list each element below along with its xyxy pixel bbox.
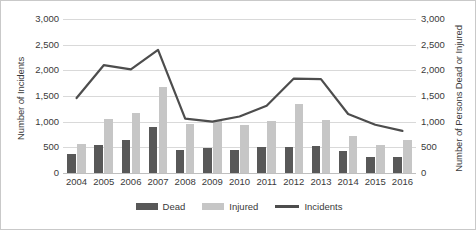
x-label-2007: 2007 — [147, 176, 168, 187]
right-tick-label: 1,000 — [421, 116, 455, 127]
left-tick-label: 1,000 — [25, 116, 59, 127]
legend-item-incidents[interactable]: Incidents — [275, 201, 342, 212]
right-tick-label: 500 — [421, 141, 455, 152]
legend-item-injured[interactable]: Injured — [202, 201, 258, 212]
legend-label-dead: Dead — [163, 201, 186, 212]
legend-label-incidents: Incidents — [304, 201, 342, 212]
x-label-2012: 2012 — [283, 176, 304, 187]
legend-label-injured: Injured — [229, 201, 258, 212]
right-tick-label: 0 — [421, 167, 455, 178]
right-tick-label: 1,500 — [421, 90, 455, 101]
incidents-line-path — [77, 50, 403, 131]
left-tick-label: 2,000 — [25, 64, 59, 75]
x-label-2015: 2015 — [365, 176, 386, 187]
x-label-2004: 2004 — [66, 176, 87, 187]
chart-container: Number of Incidents Number of Persons De… — [0, 0, 476, 230]
x-label-2009: 2009 — [202, 176, 223, 187]
x-label-2014: 2014 — [338, 176, 359, 187]
plot-area — [63, 19, 416, 173]
x-label-2013: 2013 — [310, 176, 331, 187]
right-tick-label: 3,000 — [421, 13, 455, 24]
x-axis-labels: 2004200520062007200820092010201120122013… — [63, 176, 416, 192]
x-label-2010: 2010 — [229, 176, 250, 187]
x-label-2011: 2011 — [256, 176, 276, 187]
incidents-line-icon — [275, 205, 299, 208]
x-label-2016: 2016 — [392, 176, 413, 187]
right-axis-ticks: 05001,0001,5002,0002,5003,000 — [421, 1, 455, 230]
x-label-2006: 2006 — [120, 176, 141, 187]
x-label-2005: 2005 — [93, 176, 114, 187]
dead-swatch-icon — [136, 203, 158, 210]
left-axis-ticks: 05001,0001,5002,0002,5003,000 — [25, 1, 59, 230]
line-series-layer — [63, 19, 416, 173]
left-tick-label: 1,500 — [25, 90, 59, 101]
right-tick-label: 2,500 — [421, 39, 455, 50]
left-tick-label: 500 — [25, 141, 59, 152]
left-tick-label: 3,000 — [25, 13, 59, 24]
gridline — [63, 173, 416, 174]
injured-swatch-icon — [202, 203, 224, 210]
left-axis-title: Number of Incidents — [15, 39, 26, 159]
chart-legend: Dead Injured Incidents — [1, 201, 476, 212]
x-label-2008: 2008 — [175, 176, 196, 187]
right-tick-label: 2,000 — [421, 64, 455, 75]
incidents-line-svg — [63, 19, 416, 173]
left-tick-label: 2,500 — [25, 39, 59, 50]
legend-item-dead[interactable]: Dead — [136, 201, 186, 212]
left-tick-label: 0 — [25, 167, 59, 178]
